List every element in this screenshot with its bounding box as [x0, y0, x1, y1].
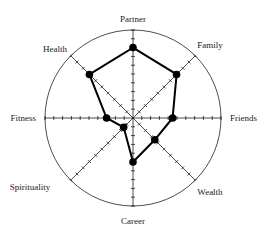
marker-spirituality — [120, 124, 128, 132]
label-friends: Friends — [230, 113, 257, 123]
radar-chart: PartnerFamilyFriendsWealthCareerSpiritua… — [0, 0, 268, 234]
label-family: Family — [197, 40, 223, 50]
axes — [45, 30, 221, 206]
marker-health — [86, 71, 94, 79]
label-career: Career — [121, 216, 145, 226]
marker-career — [129, 158, 137, 166]
label-partner: Partner — [120, 14, 146, 24]
marker-family — [173, 71, 181, 79]
marker-wealth — [151, 136, 159, 144]
label-wealth: Wealth — [197, 187, 223, 197]
marker-fitness — [103, 114, 111, 122]
label-fitness: Fitness — [10, 113, 36, 123]
marker-partner — [129, 44, 137, 52]
label-spirituality: Spirituality — [10, 182, 51, 192]
marker-friends — [169, 114, 177, 122]
label-health: Health — [43, 44, 67, 54]
